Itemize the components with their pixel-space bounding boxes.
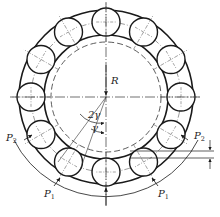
p1-left-label: P1 — [43, 188, 55, 201]
p1-right-label: P1 — [157, 188, 169, 201]
angle-2g-label: 2γ — [87, 109, 100, 120]
angle-g-label: γ — [92, 122, 98, 133]
p2-left-label: P2 — [5, 132, 17, 145]
p2-right-label: P2 — [193, 130, 205, 143]
angle-line-2g — [58, 97, 106, 162]
bearing-diagram: R 2γ γ P2 P2 P1 P1 — [0, 0, 220, 217]
radius-label: R — [110, 75, 119, 86]
